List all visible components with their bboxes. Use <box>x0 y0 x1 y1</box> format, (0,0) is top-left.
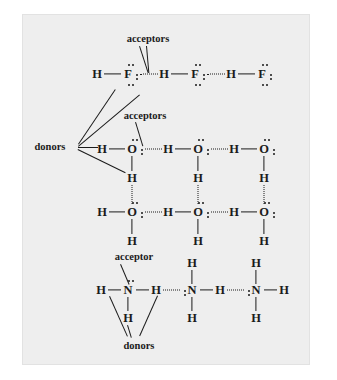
bond-n2-h-down <box>191 297 192 311</box>
bond-o-h-wb3-down <box>263 219 264 234</box>
atom-h-n2-right: H <box>215 284 225 297</box>
leader-donors-water-h1 <box>78 147 98 148</box>
bond-h-o-w1 <box>109 148 125 149</box>
leader-donors-hf-a <box>78 89 116 144</box>
atom-h-w3-left: H <box>229 143 239 156</box>
atom-f-hf-1: F <box>124 68 132 81</box>
bond-h-o-w2 <box>175 148 191 149</box>
atom-h-wb1-left: H <box>97 206 107 219</box>
bond-h-f-1 <box>104 73 121 74</box>
bond-n3-h-up <box>255 270 256 284</box>
atom-f-hf-2: F <box>191 68 199 81</box>
hbond-w1-w2 <box>145 149 162 150</box>
atom-o-w1: O <box>127 143 137 156</box>
hbond-w2-w3 <box>211 149 228 150</box>
atom-h-n2-up: H <box>187 257 197 270</box>
atom-h-wb2-left: H <box>163 206 173 219</box>
hbond-wb1-wb2 <box>145 212 162 213</box>
label-donors-left: donors <box>35 142 66 153</box>
hbond-n1-n2 <box>163 290 180 291</box>
atom-h-n3-up: H <box>251 257 261 270</box>
atom-h-wb2-down: H <box>193 235 203 248</box>
atom-h-hf-2: H <box>159 68 169 81</box>
label-donors-bottom: donors <box>124 341 155 352</box>
atom-h-n3-down: H <box>251 312 261 325</box>
leader-donors-bottom-c <box>139 296 158 337</box>
atom-h-n1-right: H <box>151 284 161 297</box>
bond-n2-h-up <box>191 270 192 284</box>
bond-h-n1-left <box>108 289 121 290</box>
label-acceptors-hf: acceptors <box>127 34 170 45</box>
atom-n3: N <box>251 284 260 297</box>
diagram-stage: acceptors H F H F H F acceptors donors H… <box>0 0 337 380</box>
bond-h-f-3 <box>238 73 255 74</box>
atom-o-wb2: O <box>193 206 203 219</box>
atom-h-w2-down: H <box>193 172 203 185</box>
bond-o-h-w1-down <box>131 156 132 171</box>
hbond-hf-2-3 <box>207 74 225 75</box>
bond-h-f-2 <box>171 73 188 74</box>
atom-h-w2-left: H <box>163 143 173 156</box>
atom-f-hf-3: F <box>258 68 266 81</box>
atom-o-wb3: O <box>259 206 269 219</box>
atom-h-n3-right: H <box>279 284 289 297</box>
atom-h-n2-down: H <box>187 312 197 325</box>
atom-h-hf-3: H <box>226 68 236 81</box>
atom-h-w1-left: H <box>97 143 107 156</box>
bond-n1-h-right <box>136 289 149 290</box>
atom-h-wb3-left: H <box>229 206 239 219</box>
bond-n2-h-right <box>200 289 213 290</box>
bond-o-h-wb2-down <box>197 219 198 234</box>
atom-n1: N <box>123 284 132 297</box>
atom-o-w2: O <box>193 143 203 156</box>
atom-n2: N <box>187 284 196 297</box>
bond-h-o-wb1 <box>109 211 125 212</box>
bond-h-o-wb3 <box>241 211 257 212</box>
atom-h-hf-1: H <box>92 68 102 81</box>
atom-h-wb1-down: H <box>127 235 137 248</box>
atom-h-wb3-down: H <box>259 235 269 248</box>
label-acceptors-water: acceptors <box>124 111 167 122</box>
bond-o-h-wb1-down <box>131 219 132 234</box>
atom-o-w3: O <box>259 143 269 156</box>
bond-n1-h-down <box>127 297 128 311</box>
hbond-hf-1-2 <box>140 74 158 75</box>
bond-o-h-w3-down <box>263 156 264 171</box>
bond-h-o-w3 <box>241 148 257 149</box>
bond-o-h-w2-down <box>197 156 198 171</box>
label-acceptor-ammonia: acceptor <box>115 252 153 263</box>
hbond-n2-n3 <box>227 290 244 291</box>
atom-h-n1-down: H <box>123 312 133 325</box>
atom-h-w1-down: H <box>127 172 137 185</box>
atom-o-wb1: O <box>127 206 137 219</box>
atom-h-w3-down: H <box>259 172 269 185</box>
bond-n3-h-right <box>264 289 277 290</box>
hbond-wb2-wb3 <box>211 212 228 213</box>
bond-h-o-wb2 <box>175 211 191 212</box>
bond-n3-h-down <box>255 297 256 311</box>
atom-h-n1-left: H <box>96 284 106 297</box>
